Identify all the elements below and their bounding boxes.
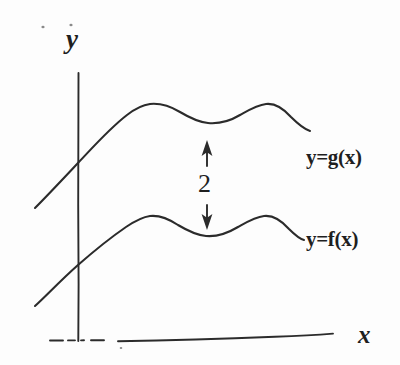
scan-speck [41,26,44,28]
curve-label-g: y=g(x) [306,147,362,168]
curve-label-f: y=f(x) [306,229,358,250]
x-axis-label: x [358,322,371,347]
figure-canvas: y x y=g(x) y=f(x) 2 [0,0,400,365]
y-axis-label: y [66,26,78,53]
scan-speck [120,347,123,349]
arrow-up-icon [202,140,213,166]
x-axis-line [118,334,333,342]
curve-f-of-x [35,216,304,306]
gap-distance-label: 2 [198,171,211,197]
arrow-down-icon [202,205,213,230]
curve-g-of-x [35,104,310,208]
